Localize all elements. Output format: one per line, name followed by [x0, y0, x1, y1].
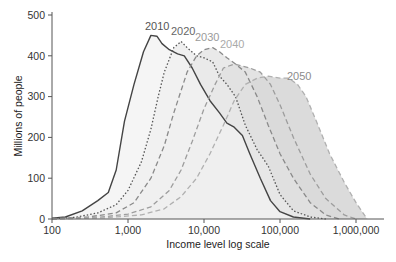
y-tick-label: 500 [27, 9, 45, 21]
y-tick-label: 400 [27, 50, 45, 62]
series-areas [52, 35, 367, 219]
income-distribution-chart: 0 100 200 300 400 500 100 1,000 10,000 1… [0, 0, 396, 262]
series-label-2010: 2010 [145, 20, 169, 32]
y-tick-label: 200 [27, 131, 45, 143]
y-axis-title: Millions of people [12, 75, 24, 156]
y-tick-label: 100 [27, 172, 45, 184]
series-label-2050: 2050 [287, 70, 311, 82]
y-tick-label: 300 [27, 90, 45, 102]
x-tick-label: 100,000 [261, 224, 299, 236]
series-label-2040: 2040 [220, 38, 244, 50]
x-tick-label: 1,000,000 [333, 224, 380, 236]
x-tick-label: 10,000 [188, 224, 220, 236]
series-label-2030: 2030 [195, 31, 219, 43]
series-label-2020: 2020 [171, 25, 195, 37]
x-tick-label: 1,000 [115, 224, 141, 236]
x-ticks: 100 1,000 10,000 100,000 1,000,000 [43, 219, 379, 236]
y-ticks: 0 100 200 300 400 500 [27, 9, 52, 225]
x-tick-label: 100 [43, 224, 61, 236]
x-axis-title: Income level log scale [166, 238, 269, 250]
